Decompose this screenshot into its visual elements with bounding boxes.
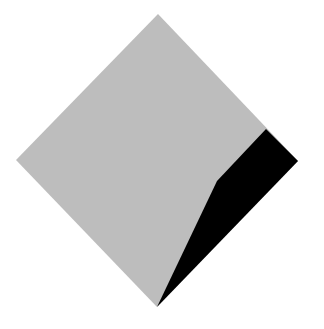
canvas	[0, 0, 324, 329]
diamond-figure	[0, 0, 324, 329]
